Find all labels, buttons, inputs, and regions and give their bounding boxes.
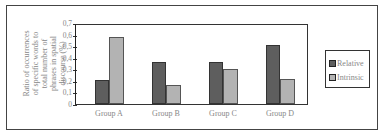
x-tick-label: Group A [79, 109, 139, 118]
y-tick-label: 0,2 [52, 78, 72, 86]
legend-swatch-intrinsic [329, 74, 336, 81]
y-tick-label: 0,1 [52, 89, 72, 97]
bar-relative-group-d [266, 45, 281, 105]
bar-relative-group-b [152, 62, 167, 105]
bar-intrinsic-group-a [109, 37, 124, 105]
legend: Relative Intrinsic [325, 50, 370, 88]
bar-intrinsic-group-d [280, 79, 295, 104]
legend-label-intrinsic: Intrinsic [337, 73, 364, 82]
bar-relative-group-a [95, 80, 110, 104]
x-tick-label: Group C [193, 109, 253, 118]
bar-relative-group-c [209, 62, 224, 105]
legend-label-relative: Relative [337, 59, 364, 68]
legend-item-relative: Relative [329, 59, 364, 68]
bar-intrinsic-group-c [223, 69, 238, 105]
legend-swatch-relative [329, 60, 336, 67]
legend-item-intrinsic: Intrinsic [329, 73, 364, 82]
y-tick-label: 0,3 [52, 66, 72, 74]
x-tick-label: Group D [250, 109, 310, 118]
bar-intrinsic-group-b [166, 85, 181, 105]
y-tick-label: 0,6 [52, 32, 72, 40]
x-tick-label: Group B [136, 109, 196, 118]
y-tick-label: 0,5 [52, 43, 72, 51]
y-tick-label: 0,4 [52, 55, 72, 63]
y-tick-label: 0 [52, 101, 72, 109]
y-tick-label: 0,7 [52, 20, 72, 28]
